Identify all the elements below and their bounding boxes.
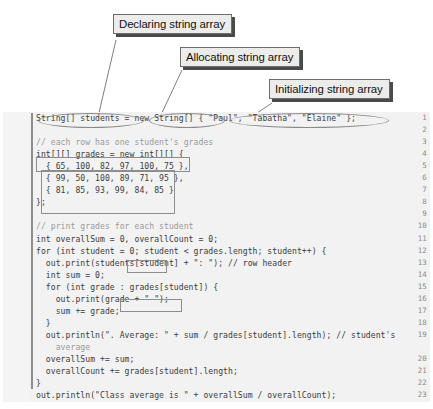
code-line: int sum = 0;: [36, 270, 105, 280]
callout-allocating-string-array: Allocating string array: [180, 47, 300, 67]
callout-declaring-string-array: Declaring string array: [113, 14, 232, 34]
ellipse-mark-allocation: [149, 113, 225, 128]
code-line: out.println(". Average: " + sum / grades…: [36, 330, 395, 340]
code-text-area: String[] students = new String[] { "Paul…: [36, 112, 428, 402]
code-line: // each row has one student's grades: [36, 137, 213, 147]
leader-allocating-string-array: [160, 70, 182, 117]
code-line: overallCount += grades[student].length;: [36, 366, 238, 376]
ellipse-mark-initialization: [229, 113, 389, 128]
code-line: overallSum += sum;: [36, 354, 134, 364]
gutter-divider: [31, 113, 33, 389]
code-line: int overallSum = 0, overallCount = 0;: [36, 234, 218, 244]
code-line: sum += grade;: [36, 306, 120, 316]
line-number-gutter: [3, 112, 29, 402]
code-listing: 1234567891011121314151617181920212223 St…: [3, 112, 430, 402]
rect-mark-grades-length: [127, 260, 167, 273]
rect-mark-grades-student: [120, 299, 182, 312]
callout-initializing-string-array: Initializing string array: [269, 79, 390, 99]
code-line: for (int student = 0; student < grades.l…: [36, 246, 326, 256]
code-line: }: [36, 318, 51, 328]
code-line: out.println("Class average is " + overal…: [36, 390, 336, 400]
annotated-code-figure: Declaring string array Allocating string…: [0, 0, 433, 409]
ellipse-mark-declaration: [38, 113, 144, 128]
code-line: average: [36, 342, 90, 352]
rect-mark-2d-initializer: [41, 170, 175, 214]
leader-declaring-string-array: [98, 40, 116, 117]
code-line: }: [36, 378, 41, 388]
code-line: // print grades for each student: [36, 221, 194, 231]
code-line: for (int grade : grades[student]) {: [36, 282, 218, 292]
